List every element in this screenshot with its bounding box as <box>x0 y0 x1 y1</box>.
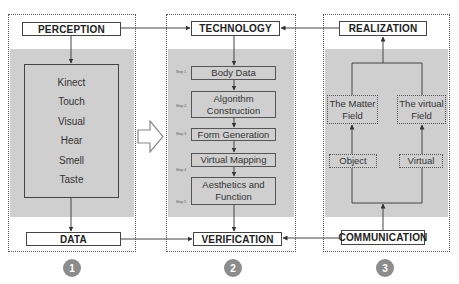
flow-arrows <box>0 0 459 284</box>
